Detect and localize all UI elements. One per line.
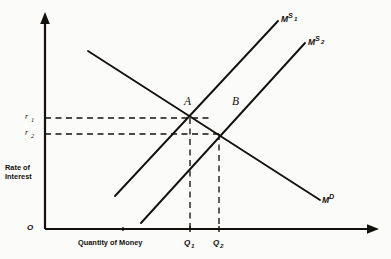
r1-subscript: 1 [31,116,34,123]
r1-base: r [25,112,29,121]
q1-subscript: 1 [191,242,195,249]
q2-subscript: 2 [219,242,224,249]
money-supply-2-curve [141,43,305,223]
y-axis-arrow-icon [40,12,50,24]
x-axis-title: Quantity of Money [78,238,143,247]
ms1-superscript: S [288,11,293,20]
point-b-label: B [232,95,239,107]
x-tick-label-q2: Q 2 [213,238,224,249]
x-tick-label-q1: Q 1 [184,238,195,249]
money-supply-1-label: M S 1 [281,11,298,24]
y-axis-title-line1: Rate of [5,163,31,172]
x-axis-arrow-icon [367,224,379,234]
origin-label: O [27,223,34,232]
money-market-diagram: M S 1 M S 2 M D A B r 1 r 2 O Rate of In… [0,0,391,259]
money-demand-label: M D [322,192,334,205]
point-a-label: A [183,95,192,107]
x-axis [45,224,379,234]
r2-base: r [25,128,29,137]
md-superscript: D [329,192,334,201]
y-tick-label-r1: r 1 [25,112,34,123]
money-supply-1-curve [115,21,278,196]
y-axis-title-line2: Interest [5,172,32,181]
ms1-subscript: 1 [294,16,298,22]
q1-base: Q [184,238,191,247]
ms2-superscript: S [315,34,320,43]
money-supply-2-label: M S 2 [308,34,325,47]
ms2-subscript: 2 [320,39,325,45]
r2-subscript: 2 [31,132,35,139]
y-axis [40,12,50,229]
y-tick-label-r2: r 2 [25,128,35,139]
money-demand-curve [88,51,320,200]
q2-base: Q [213,238,220,247]
diagram-canvas: M S 1 M S 2 M D A B r 1 r 2 O Rate of In… [0,0,391,259]
